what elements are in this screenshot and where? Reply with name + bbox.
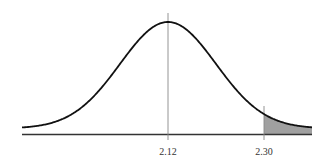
tick-label-cutoff: 2.30	[255, 146, 273, 157]
normal-curve-chart: 2.12 2.30	[0, 0, 325, 163]
tick-label-mean: 2.12	[159, 146, 177, 157]
normal-density-curve	[22, 22, 312, 127]
